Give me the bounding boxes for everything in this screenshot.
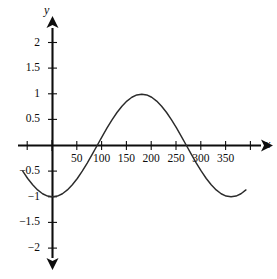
y-tick-label-neg-0-5: −0.5	[6, 165, 40, 177]
y-tick-label-0-5: 0.5	[10, 113, 40, 125]
x-axis-label: x	[265, 138, 270, 150]
y-axis-arrowhead-up	[47, 16, 59, 28]
y-axis	[47, 16, 59, 270]
coordinate-plane	[0, 0, 277, 279]
graph-figure: 2 1.5 1 0.5 −0.5 −1 −1.5 −2 50 100 150 2…	[0, 0, 277, 279]
x-tick-label-350: 350	[211, 153, 241, 165]
y-tick-label-neg-1: −1	[6, 191, 40, 203]
y-tick-label-neg-1-5: −1.5	[6, 216, 40, 228]
y-axis-arrowhead-down	[47, 258, 59, 270]
y-tick-label-1-5: 1.5	[10, 62, 40, 74]
x-axis	[18, 140, 273, 152]
y-axis-label: y	[44, 4, 49, 16]
y-tick-label-1: 1	[10, 88, 40, 100]
y-tick-label-2: 2	[10, 37, 40, 49]
y-tick-label-neg-2: −2	[6, 242, 40, 254]
